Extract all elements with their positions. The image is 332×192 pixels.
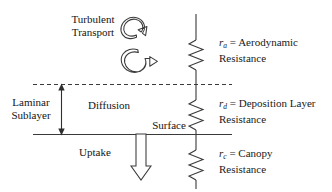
resistor-name-aerodynamic-line2: Resistance <box>219 52 298 65</box>
resistor-name-deposition-layer-line2: Resistance <box>219 113 315 126</box>
resistor-label-deposition-layer-line1: rd = Deposition Layer <box>219 97 315 113</box>
diffusion-label: Diffusion <box>72 99 146 112</box>
resistor-aerodynamic-icon <box>189 40 203 70</box>
resistor-label-aerodynamic: ra = Aerodynamic Resistance <box>219 36 298 65</box>
uptake-arrow-icon <box>131 134 151 180</box>
turbulence-swirl-lower-icon <box>121 49 157 72</box>
resistor-label-canopy: rc = Canopy Resistance <box>219 147 273 176</box>
turbulent-transport-line2: Transport <box>60 26 126 39</box>
resistor-name-deposition-layer-line1: Deposition Layer <box>239 97 316 109</box>
surface-label: Surface <box>146 119 192 132</box>
laminar-sublayer-extent-arrow <box>58 84 64 136</box>
turbulent-transport-label: Turbulent Transport <box>60 13 126 38</box>
laminar-sublayer-line2: Sublayer <box>4 109 58 122</box>
resistor-label-deposition-layer: rd = Deposition Layer Resistance <box>219 97 315 126</box>
resistor-name-canopy-line2: Resistance <box>219 163 273 176</box>
resistor-equals-deposition-layer: = <box>227 97 239 109</box>
uptake-label: Uptake <box>68 146 122 159</box>
resistor-name-aerodynamic-line1: Aerodynamic <box>238 36 298 48</box>
laminar-sublayer-line1: Laminar <box>4 96 58 109</box>
resistor-name-canopy-line1: Canopy <box>238 147 272 159</box>
turbulent-transport-line1: Turbulent <box>60 13 126 26</box>
resistor-label-aerodynamic-line1: ra = Aerodynamic <box>219 36 298 52</box>
resistor-equals-aerodynamic: = <box>227 36 238 48</box>
resistor-canopy-icon <box>189 150 203 180</box>
resistor-equals-canopy: = <box>227 147 239 159</box>
deposition-resistance-diagram: Turbulent Transport Laminar Sublayer Dif… <box>0 0 332 192</box>
laminar-sublayer-label: Laminar Sublayer <box>4 96 58 121</box>
resistor-network <box>189 14 203 189</box>
resistor-label-canopy-line1: rc = Canopy <box>219 147 273 163</box>
